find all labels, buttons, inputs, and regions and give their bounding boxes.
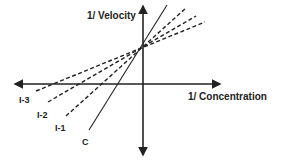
label-i-3: I-3	[19, 95, 30, 105]
y-axis-label: 1/ Velocity	[87, 10, 136, 21]
line-i-3	[36, 22, 205, 91]
line-i-1	[66, 8, 186, 116]
line-c	[89, 5, 167, 130]
label-i-1: I-1	[55, 123, 66, 133]
label-c: C	[82, 137, 89, 147]
lineweaver-burk-diagram: 1/ Velocity 1/ Concentration I-3 I-2 I-1…	[0, 0, 281, 162]
line-i-2	[48, 16, 196, 102]
x-axis-label: 1/ Concentration	[188, 91, 267, 102]
label-i-2: I-2	[37, 110, 48, 120]
